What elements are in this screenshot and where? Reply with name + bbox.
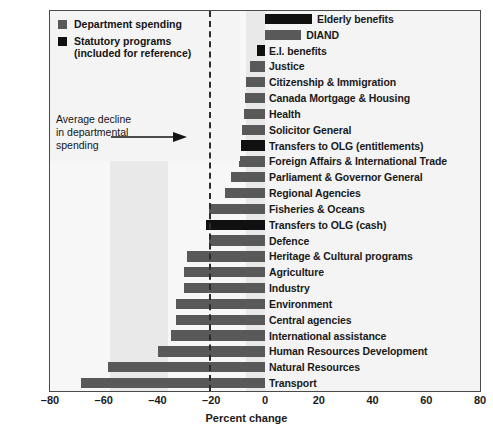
bar-label: E.I. benefits [269, 45, 327, 57]
x-tick-label: –60 [95, 394, 113, 406]
average-reference-line [209, 11, 211, 391]
bar [108, 362, 265, 372]
x-tick-label: 80 [474, 394, 486, 406]
bar-label: Human Resources Development [269, 345, 427, 357]
bar-row: Natural Resources [50, 362, 480, 372]
bar-label: Environment [269, 298, 332, 310]
annotation-line-1: Average decline [56, 113, 166, 126]
x-axis: –80–60–40–20020406080 [49, 392, 481, 414]
bar-label: Solicitor General [269, 124, 351, 136]
bar [231, 172, 265, 182]
bar-label: Defence [269, 235, 309, 247]
bar [265, 14, 312, 24]
legend-label-statutory-line1: Statutory programs [74, 35, 171, 47]
legend-item-statutory: Statutory programs (included for referen… [58, 35, 234, 60]
bar-label: Regional Agencies [269, 187, 361, 199]
bar-label: Foreign Affairs & International Trade [269, 155, 447, 167]
bar-label: Citizenship & Immigration [269, 76, 396, 88]
bar-label: Central agencies [269, 314, 351, 326]
bar-row: Human Resources Development [50, 346, 480, 356]
bar-row: Central agencies [50, 315, 480, 325]
legend: Department spending Statutory programs (… [58, 18, 234, 64]
x-axis-title: Percent change [0, 412, 493, 424]
bar [209, 235, 265, 245]
annotation-arrow-icon [111, 132, 187, 142]
x-tick-label: –20 [202, 394, 220, 406]
bar [241, 140, 265, 150]
bar-label: Natural Resources [269, 361, 360, 373]
bar-row: Industry [50, 283, 480, 293]
bar-row: Regional Agencies [50, 188, 480, 198]
bar-label: Transport [269, 377, 317, 389]
bar [209, 204, 265, 214]
bar-row: Environment [50, 299, 480, 309]
x-tick-label: –80 [41, 394, 59, 406]
bar [265, 30, 301, 40]
bar-label: Transfers to OLG (cash) [269, 219, 386, 231]
bar-row: Heritage & Cultural programs [50, 251, 480, 261]
figure: Elderly benefitsDIANDE.I. benefitsJustic… [0, 0, 493, 444]
x-tick-label: 20 [313, 394, 325, 406]
bar-row: Fisheries & Oceans [50, 204, 480, 214]
bar [245, 93, 265, 103]
bar-label: Fisheries & Oceans [269, 203, 365, 215]
legend-item-department: Department spending [58, 18, 234, 31]
legend-label-statutory: Statutory programs (included for referen… [74, 35, 191, 60]
x-tick-label: 0 [262, 394, 268, 406]
bar-row: Transfers to OLG (cash) [50, 220, 480, 230]
bar [242, 125, 265, 135]
legend-label-statutory-line2: (included for reference) [74, 47, 191, 59]
x-tick-label: –40 [148, 394, 166, 406]
bar [257, 45, 265, 55]
bar-label: Heritage & Cultural programs [269, 250, 413, 262]
bar [81, 378, 265, 388]
bar-label: Health [269, 108, 301, 120]
bar-label: Industry [269, 282, 310, 294]
bar [239, 156, 265, 166]
bar-row: International assistance [50, 330, 480, 340]
bar [184, 283, 265, 293]
bar-label: Transfers to OLG (entitlements) [269, 140, 423, 152]
bar-label: Justice [269, 60, 305, 72]
bar-label: Elderly benefits [317, 13, 394, 25]
bar [176, 315, 265, 325]
bar [187, 251, 265, 261]
bar [171, 330, 265, 340]
bar [246, 77, 265, 87]
legend-label-department: Department spending [74, 18, 182, 31]
plot-area: Elderly benefitsDIANDE.I. benefitsJustic… [49, 10, 481, 392]
bar [184, 267, 265, 277]
bar [250, 61, 265, 71]
bar-label: Canada Mortgage & Housing [269, 92, 410, 104]
bar-row: Agriculture [50, 267, 480, 277]
bar [206, 220, 265, 230]
bar-label: International assistance [269, 330, 386, 342]
x-tick-label: 60 [420, 394, 432, 406]
bar [176, 299, 265, 309]
bar-label: Parliament & Governor General [269, 171, 423, 183]
legend-swatch-statutory [58, 37, 67, 46]
bar-row: Transport [50, 378, 480, 388]
bar-row: Parliament & Governor General [50, 172, 480, 182]
bar-label: Agriculture [269, 266, 324, 278]
bar [244, 109, 265, 119]
legend-swatch-department [58, 20, 67, 29]
x-tick-label: 40 [366, 394, 378, 406]
bar [225, 188, 265, 198]
bar-label: DIAND [306, 29, 339, 41]
bar-row: Defence [50, 235, 480, 245]
